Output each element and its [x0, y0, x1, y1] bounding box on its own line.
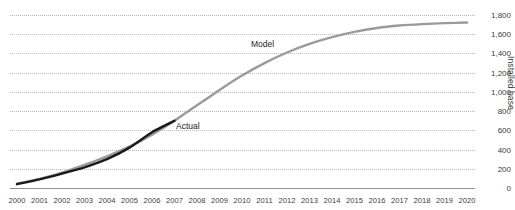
series-layer [0, 0, 515, 210]
series-line-model [17, 23, 467, 184]
series-label-model: Model [251, 39, 274, 49]
chart-figure: 02004006008001,0001,2001,4001,6001,800 2… [0, 0, 515, 210]
series-label-actual: Actual [176, 121, 200, 131]
series-line-actual [17, 121, 175, 184]
